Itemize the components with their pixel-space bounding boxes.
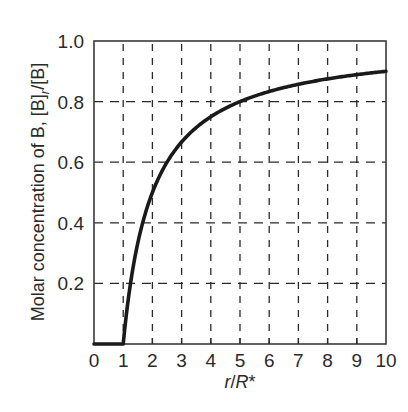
y-tick-label: 0.8 <box>58 92 84 113</box>
y-axis-title: Molar concentration of B, [B]r/[B] <box>28 63 52 321</box>
x-tick-label: 3 <box>176 350 187 371</box>
x-tick-label: 4 <box>206 350 217 371</box>
x-tick-label: 6 <box>264 350 275 371</box>
x-tick-label: 5 <box>235 350 246 371</box>
x-tick-label: 2 <box>147 350 158 371</box>
y-tick-label: 0.4 <box>58 213 85 234</box>
y-tick-label: 0.2 <box>58 273 84 294</box>
y-axis-ticks: 0.20.40.60.81.0 <box>58 31 85 294</box>
x-tick-label: 0 <box>89 350 100 371</box>
y-tick-label: 0.6 <box>58 152 84 173</box>
chart: 012345678910 0.20.40.60.81.0 Molar conce… <box>0 0 408 412</box>
x-tick-label: 9 <box>352 350 363 371</box>
x-tick-label: 7 <box>293 350 304 371</box>
y-tick-label: 1.0 <box>58 31 84 52</box>
x-tick-label: 10 <box>375 350 396 371</box>
x-tick-label: 8 <box>322 350 333 371</box>
x-axis-ticks: 012345678910 <box>89 338 397 371</box>
x-tick-label: 1 <box>118 350 129 371</box>
concentration-curve <box>94 71 386 344</box>
x-axis-title: r/R* <box>224 372 255 392</box>
grid-lines <box>94 41 386 344</box>
